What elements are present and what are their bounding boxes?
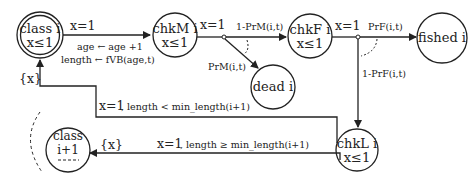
node-class-i: class i x≤1 — [17, 12, 63, 58]
node-label: chkM i — [152, 21, 197, 36]
node-fished: fished i — [417, 13, 467, 63]
node-class-next: class i+1 — [30, 112, 90, 172]
edge-guard: x=1 — [157, 136, 182, 151]
node-label: i+1 — [57, 143, 79, 157]
edge-update: length ← fVB(age,t) — [61, 54, 155, 65]
node-label: chkL i — [337, 136, 377, 151]
node-invariant: x≤1 — [27, 35, 54, 50]
node-chkL: chkL i x≤1 — [336, 129, 378, 171]
node-label: class i — [20, 21, 61, 36]
edge-class-to-chkM: x=1 age ← age +1 length ← fVB(age,t) — [61, 18, 155, 65]
edge-prob: 1-PrM(i,t) — [236, 21, 283, 32]
edge-reset: {x} — [100, 137, 123, 152]
edge-guard: x=1 — [200, 17, 225, 32]
edge-chkF-branch: x=1 PrF(i,t) 1-PrF(i,t) — [332, 18, 416, 127]
node-dead: dead i — [251, 65, 295, 109]
node-label: fished i — [418, 30, 466, 45]
edge-prob: PrF(i,t) — [368, 21, 403, 32]
node-label: dead i — [253, 79, 293, 94]
edge-prob: 1-PrF(i,t) — [362, 68, 406, 79]
edge-chkL-to-class-next: {x} x=1 , length ≥ min_length(i+1) — [90, 136, 340, 160]
edge-guard: x=1 — [70, 18, 95, 33]
node-invariant: x≤1 — [162, 35, 189, 50]
edge-update: age ← age +1 — [77, 41, 143, 52]
node-chkF: chkF i x≤1 — [288, 14, 332, 58]
edge-reset: {x} — [19, 71, 42, 86]
continuation-arc — [30, 112, 42, 172]
node-chkM: chkM i x≤1 — [152, 13, 197, 57]
node-label: class — [53, 129, 83, 143]
edge-prob: PrM(i,t) — [208, 61, 246, 72]
state-diagram: class i x≤1 x=1 age ← age +1 length ← fV… — [0, 0, 474, 173]
node-label: chkF i — [290, 22, 331, 37]
edge-condition: , length ≥ min_length(i+1) — [180, 139, 309, 151]
node-invariant: x≤1 — [297, 36, 324, 51]
edge-chkM-branch: x=1 1-PrM(i,t) PrM(i,t) — [197, 17, 286, 72]
edge-condition: , length < min_length(i+1) — [121, 101, 250, 113]
node-invariant: x≤1 — [344, 150, 371, 165]
edge-guard: x=1 — [335, 18, 360, 33]
